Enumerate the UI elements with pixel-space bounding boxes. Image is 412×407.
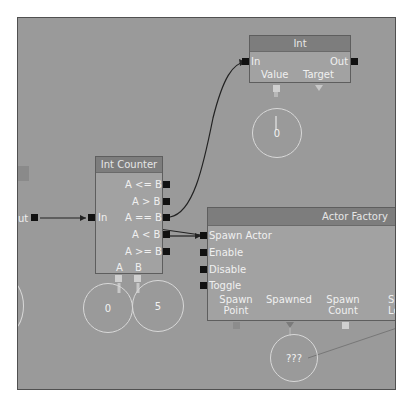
int-var-target-label: Target bbox=[303, 69, 334, 80]
actor-factory-in-label-enable: Enable bbox=[209, 247, 243, 258]
node-actor-factory-title: Actor Factory bbox=[208, 208, 396, 226]
variable-int-value-text: 0 bbox=[274, 128, 280, 139]
int-counter-var-b-port[interactable] bbox=[134, 275, 141, 282]
int-in-label: In bbox=[251, 56, 260, 67]
int-in-port[interactable] bbox=[242, 58, 249, 65]
int-counter-out-port-le[interactable] bbox=[163, 181, 170, 188]
actor-factory-in-port-enable[interactable] bbox=[200, 249, 207, 256]
int-counter-in-label: In bbox=[98, 212, 107, 223]
int-counter-out-port-lt[interactable] bbox=[163, 231, 170, 238]
int-counter-var-b-label: B bbox=[135, 262, 142, 273]
variable-spawned-text: ??? bbox=[286, 353, 302, 364]
actor-factory-var-spawn-point: Spawn Point bbox=[218, 294, 254, 316]
partial-node-out-label: ut bbox=[18, 213, 28, 224]
actor-factory-in-label-spawn: Spawn Actor bbox=[209, 230, 272, 241]
actor-factory-spawn-point-port[interactable] bbox=[233, 322, 240, 329]
int-counter-out-port-ge[interactable] bbox=[163, 248, 170, 255]
int-counter-out-label-le: A <= B bbox=[125, 179, 162, 190]
variable-counter-a[interactable]: 0 bbox=[83, 283, 133, 333]
actor-factory-in-label-disable: Disable bbox=[209, 264, 246, 275]
int-out-port[interactable] bbox=[351, 58, 358, 65]
actor-factory-in-port-disable[interactable] bbox=[200, 266, 207, 273]
variable-counter-a-text: 0 bbox=[105, 303, 111, 314]
variable-counter-b[interactable]: 5 bbox=[132, 280, 184, 332]
int-counter-var-a-label: A bbox=[116, 262, 123, 273]
int-counter-out-label-eq: A == B bbox=[125, 212, 162, 223]
variable-int-value[interactable]: 0 bbox=[252, 108, 302, 158]
partial-node-out-port[interactable] bbox=[31, 214, 38, 221]
int-counter-out-port-eq[interactable] bbox=[163, 214, 170, 221]
variable-counter-b-text: 5 bbox=[155, 301, 161, 312]
int-counter-var-a-port[interactable] bbox=[115, 275, 122, 282]
kismet-canvas[interactable]: ut Int In Out Value Target 0 Int Counter… bbox=[17, 17, 396, 390]
int-counter-out-label-ge: A >= B bbox=[125, 246, 162, 257]
actor-factory-spawned-port[interactable] bbox=[286, 322, 294, 328]
partial-node-header bbox=[18, 166, 29, 181]
actor-factory-in-port-toggle[interactable] bbox=[200, 282, 207, 289]
int-var-value-label: Value bbox=[261, 69, 288, 80]
int-value-var-stem bbox=[274, 92, 278, 97]
actor-factory-in-port-spawn[interactable] bbox=[200, 232, 207, 239]
partial-variable[interactable] bbox=[17, 278, 24, 334]
actor-factory-in-label-toggle: Toggle bbox=[209, 280, 241, 291]
node-int-title: Int bbox=[250, 36, 350, 52]
actor-factory-spawn-count-port[interactable] bbox=[342, 322, 349, 329]
actor-factory-var-spawn-loc: Sp Loc bbox=[388, 294, 396, 316]
int-counter-out-label-gt: A > B bbox=[132, 196, 160, 207]
int-counter-out-port-gt[interactable] bbox=[163, 198, 170, 205]
node-int-counter-title: Int Counter bbox=[96, 157, 162, 173]
int-counter-out-label-lt: A < B bbox=[132, 229, 160, 240]
actor-factory-var-spawned: Spawned bbox=[266, 294, 312, 305]
int-out-label: Out bbox=[330, 56, 348, 67]
int-target-var-port[interactable] bbox=[315, 85, 323, 91]
int-counter-in-port[interactable] bbox=[88, 214, 95, 221]
int-value-var-port[interactable] bbox=[273, 85, 280, 92]
actor-factory-var-spawn-count: Spawn Count bbox=[325, 294, 361, 316]
actor-factory-title-text: Actor Factory bbox=[322, 211, 388, 222]
variable-spawned[interactable]: ??? bbox=[270, 334, 318, 382]
